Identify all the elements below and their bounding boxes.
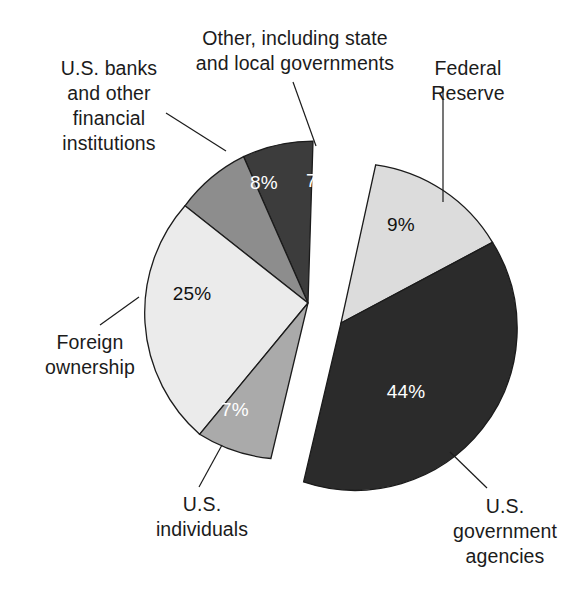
slice-value-federal-reserve: 9% (387, 214, 415, 235)
callout-label-other: Other, including state and local governm… (178, 26, 412, 76)
slice-value-other: 7% (306, 170, 334, 191)
callout-label-us-individuals: U.S. individuals (122, 492, 282, 542)
leader-line-us-government-agencies (450, 452, 487, 488)
callout-label-us-government-agencies: U.S. government agencies (432, 494, 578, 569)
pie-chart-figure: 8% 7% 25% 7% 9% 44% Other, including sta… (0, 0, 580, 593)
slice-value-us-individuals: 7% (221, 399, 249, 420)
slice-value-us-banks: 8% (250, 172, 278, 193)
callout-label-federal-reserve: Federal Reserve (402, 56, 534, 106)
leader-line-us-individuals (199, 445, 222, 487)
slice-value-us-government-agencies: 44% (387, 381, 426, 402)
slice-value-foreign-ownership: 25% (173, 283, 212, 304)
leader-line-other (293, 82, 316, 146)
callout-label-us-banks: U.S. banks and other financial instituti… (26, 56, 192, 156)
leader-line-foreign-ownership (100, 297, 139, 325)
callout-label-foreign-ownership: Foreign ownership (14, 330, 166, 380)
